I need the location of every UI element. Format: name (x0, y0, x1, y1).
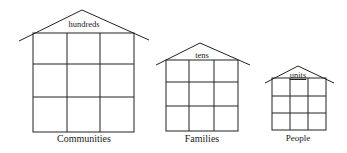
roof-label-tens: tens (195, 50, 209, 60)
roof-label-units: units (290, 70, 307, 80)
caption-people: People (286, 133, 311, 143)
caption-families: Families (185, 133, 219, 144)
caption-communities: Communities (57, 133, 111, 144)
roof-label-hundreds: hundreds (68, 19, 99, 29)
